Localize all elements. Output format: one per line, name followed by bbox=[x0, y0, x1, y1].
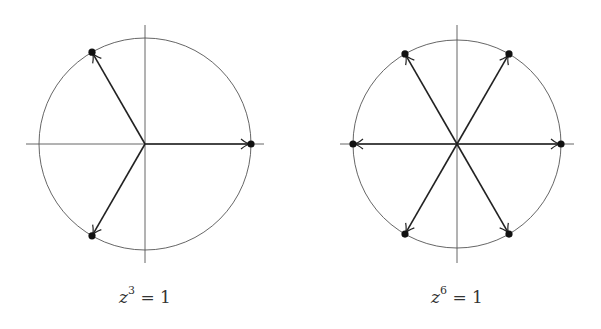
root-point bbox=[505, 230, 512, 237]
root-vector-arrow bbox=[405, 54, 457, 144]
root-point bbox=[401, 50, 408, 57]
root-vector-arrow bbox=[405, 144, 457, 234]
roots-of-unity-figure bbox=[0, 0, 601, 329]
cube-roots-equation-label: z3 = 1 bbox=[119, 286, 171, 307]
root-point bbox=[401, 230, 408, 237]
root-vector-arrow bbox=[457, 144, 509, 234]
root-point bbox=[88, 49, 95, 56]
sixth-roots-equation-label: z6 = 1 bbox=[431, 286, 483, 307]
root-vector-arrow bbox=[92, 144, 145, 236]
root-vector-arrow bbox=[92, 52, 145, 144]
cube-roots-diagram bbox=[26, 25, 264, 263]
root-vector-arrow bbox=[457, 54, 509, 144]
root-point bbox=[557, 140, 564, 147]
root-point bbox=[88, 232, 95, 239]
root-point bbox=[505, 50, 512, 57]
root-point bbox=[247, 140, 254, 147]
sixth-roots-diagram bbox=[340, 25, 574, 263]
root-point bbox=[349, 140, 356, 147]
